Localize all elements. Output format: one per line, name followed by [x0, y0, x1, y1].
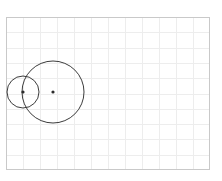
small-circle-center — [21, 90, 24, 93]
figure-canvas — [0, 0, 222, 181]
figure-svg — [0, 0, 222, 181]
large-circle-center — [51, 90, 54, 93]
